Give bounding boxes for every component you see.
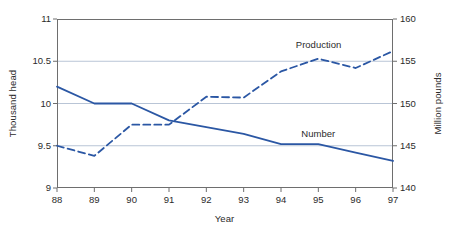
y-axis-left-tick-label: 10 bbox=[25, 98, 51, 109]
y-axis-left-tick-label: 9.5 bbox=[25, 140, 51, 151]
series-label-production: Production bbox=[296, 39, 341, 50]
y-axis-right-tick-label: 150 bbox=[400, 98, 430, 109]
y-axis-right-tick-label: 160 bbox=[400, 13, 430, 24]
x-axis-tick-label: 95 bbox=[306, 194, 330, 205]
x-axis-title: Year bbox=[0, 213, 449, 224]
x-axis-tick-label: 91 bbox=[157, 194, 181, 205]
chart-container: Thousand head Million pounds Year 99.510… bbox=[0, 0, 449, 232]
x-axis-tick-label: 93 bbox=[232, 194, 256, 205]
y-axis-left-tick-label: 9 bbox=[25, 182, 51, 193]
x-axis-tick-label: 94 bbox=[269, 194, 293, 205]
x-axis-tick-label: 92 bbox=[194, 194, 218, 205]
y-axis-right-tick-label: 145 bbox=[400, 140, 430, 151]
y-axis-right-tick-label: 155 bbox=[400, 55, 430, 66]
x-axis-tick-label: 89 bbox=[82, 194, 106, 205]
x-axis-tick-label: 96 bbox=[344, 194, 368, 205]
y-axis-left-title: Thousand head bbox=[7, 58, 18, 150]
series-label-number: Number bbox=[301, 128, 335, 139]
x-axis-tick-label: 97 bbox=[381, 194, 405, 205]
y-axis-right-title: Million pounds bbox=[432, 58, 443, 150]
y-axis-left-tick-label: 11 bbox=[25, 13, 51, 24]
x-axis-tick-label: 88 bbox=[45, 194, 69, 205]
y-axis-right-tick-label: 140 bbox=[400, 182, 430, 193]
x-axis-tick-label: 90 bbox=[120, 194, 144, 205]
y-axis-left-tick-label: 10.5 bbox=[25, 55, 51, 66]
